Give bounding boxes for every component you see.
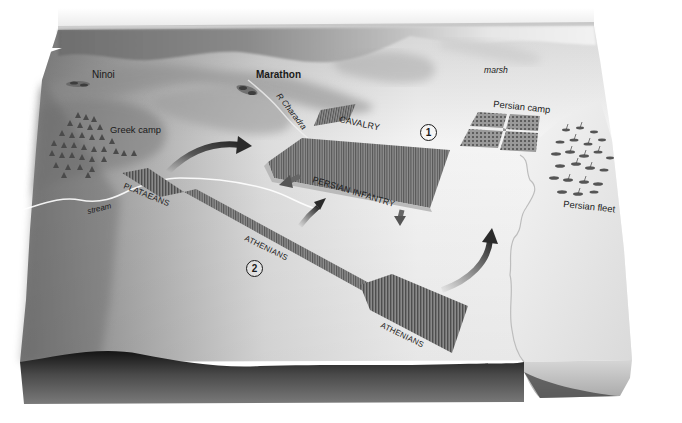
step-marker-1: 1 [420,124,437,141]
label-marathon: Marathon [256,69,301,80]
label-ninoi: Ninoi [92,69,115,80]
label-marsh: marsh [484,65,508,75]
label-greek-camp: Greek camp [110,124,161,135]
step-marker-2: 2 [246,260,263,277]
map-canvas: Ninoi Marathon R Charadra marsh Greek ca… [0,0,682,423]
ninoi-village [66,81,90,87]
marathon-battle-map: Ninoi Marathon R Charadra marsh Greek ca… [0,0,682,423]
